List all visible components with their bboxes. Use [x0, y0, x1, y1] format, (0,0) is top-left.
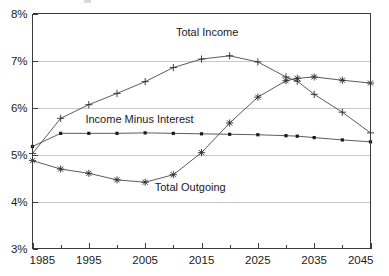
- x-axis-tick-label: 2025: [245, 254, 271, 266]
- data-point-marker-square: [313, 136, 316, 139]
- x-axis-tick-label: 1985: [30, 254, 56, 266]
- y-axis-tick-label: 5%: [11, 149, 28, 161]
- x-axis-tick-label: 1995: [76, 254, 102, 266]
- x-axis-tick-label: 2045: [348, 254, 374, 266]
- data-point-marker-asterisk: [85, 170, 92, 177]
- data-point-marker-square: [172, 132, 175, 135]
- data-point-marker-asterisk: [294, 75, 301, 82]
- y-axis-tick-label: 3%: [11, 243, 28, 255]
- data-point-marker-asterisk: [142, 179, 149, 186]
- data-point-marker-asterisk: [57, 165, 64, 172]
- series-annotation-label: Income Minus Interest: [85, 113, 193, 125]
- data-point-marker-square: [144, 131, 147, 134]
- data-point-marker-square: [341, 138, 344, 141]
- data-point-marker-asterisk: [198, 149, 205, 156]
- data-point-marker-square: [59, 132, 62, 135]
- data-point-marker-asterisk: [282, 77, 289, 84]
- data-point-marker-asterisk: [113, 176, 120, 183]
- chart-figure: 3%4%5%6%7%8%1985199520052015202520352045…: [0, 0, 389, 276]
- chart-background: [0, 0, 389, 276]
- data-point-marker-asterisk: [339, 77, 346, 84]
- data-point-marker-square: [296, 135, 299, 138]
- data-point-marker-asterisk: [254, 94, 261, 101]
- x-axis-tick-label: 2005: [132, 254, 158, 266]
- clipped-artifact: [84, 0, 91, 3]
- data-point-marker-square: [228, 133, 231, 136]
- data-point-marker-square: [115, 132, 118, 135]
- data-point-marker-square: [284, 134, 287, 137]
- data-point-marker-asterisk: [170, 171, 177, 178]
- data-point-marker-asterisk: [311, 73, 318, 80]
- line-chart-canvas: 3%4%5%6%7%8%1985199520052015202520352045…: [0, 0, 389, 276]
- y-axis-tick-label: 4%: [11, 196, 28, 208]
- series-annotation-label: Total Income: [176, 26, 238, 38]
- y-axis-tick-label: 8%: [11, 8, 28, 20]
- series-annotation-label: Total Outgoing: [155, 181, 226, 193]
- data-point-marker-square: [256, 133, 259, 136]
- y-axis-tick-label: 7%: [11, 55, 28, 67]
- data-point-marker-asterisk: [226, 119, 233, 126]
- data-point-marker-square: [87, 132, 90, 135]
- data-point-marker-square: [200, 132, 203, 135]
- x-axis-tick-label: 2035: [301, 254, 327, 266]
- y-axis-tick-label: 6%: [11, 102, 28, 114]
- x-axis-tick-label: 2015: [189, 254, 215, 266]
